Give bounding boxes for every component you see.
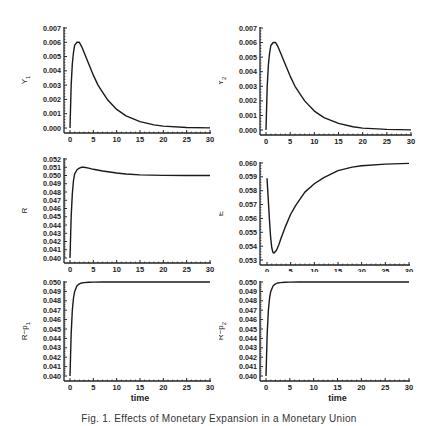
svg-text:0: 0 <box>68 383 72 392</box>
y-axis-label: R <box>20 207 29 213</box>
svg-text:0.055: 0.055 <box>239 228 257 237</box>
svg-text:0.052: 0.052 <box>43 155 61 164</box>
svg-text:0.040: 0.040 <box>43 254 61 263</box>
svg-text:0.004: 0.004 <box>239 67 257 76</box>
svg-text:0.050: 0.050 <box>239 278 257 287</box>
chart-svg: 0.0000.0010.0020.0030.0040.0050.0060.007… <box>219 0 438 145</box>
svg-text:0.005: 0.005 <box>43 52 61 61</box>
svg-text:0.046: 0.046 <box>43 204 61 213</box>
svg-text:0.041: 0.041 <box>239 362 257 371</box>
svg-text:30: 30 <box>405 383 413 392</box>
svg-text:0.001: 0.001 <box>239 111 257 120</box>
svg-text:15: 15 <box>136 383 144 392</box>
svg-text:0.044: 0.044 <box>239 334 257 343</box>
data-series-line <box>70 167 210 258</box>
y-axis-label: R−p2 <box>219 321 227 340</box>
svg-text:0.043: 0.043 <box>43 229 61 238</box>
chart-svg: 0.0000.0010.0020.0030.0040.0050.0060.007… <box>0 0 220 145</box>
svg-text:0.045: 0.045 <box>43 325 61 334</box>
svg-text:0: 0 <box>264 383 268 392</box>
svg-text:0.049: 0.049 <box>239 287 257 296</box>
svg-text:0.045: 0.045 <box>43 212 61 221</box>
svg-text:0.054: 0.054 <box>239 242 257 251</box>
axes <box>260 162 410 265</box>
svg-text:0.049: 0.049 <box>43 287 61 296</box>
svg-text:0.048: 0.048 <box>43 296 61 305</box>
axes <box>64 27 211 133</box>
svg-text:0.041: 0.041 <box>43 245 61 254</box>
chart-panel-y1: 0.0000.0010.0020.0030.0040.0050.0060.007… <box>0 0 220 145</box>
svg-text:0.004: 0.004 <box>43 66 61 75</box>
svg-text:5: 5 <box>288 383 292 392</box>
svg-text:0.051: 0.051 <box>43 163 61 172</box>
svg-text:0.044: 0.044 <box>43 221 61 230</box>
svg-text:0.003: 0.003 <box>43 81 61 90</box>
chart-panel-e: 0.0530.0540.0550.0560.0570.0580.0590.060… <box>219 137 438 272</box>
svg-text:0.046: 0.046 <box>239 315 257 324</box>
chart-panel-r: 0.0400.0410.0420.0430.0440.0450.0460.047… <box>0 137 220 272</box>
x-tick-labels: 051015202530 <box>68 378 214 392</box>
svg-text:0.059: 0.059 <box>239 172 257 181</box>
y-axis-label: Y2 <box>219 76 227 85</box>
y-axis-label: E <box>219 211 225 216</box>
svg-text:0.040: 0.040 <box>239 372 257 381</box>
svg-text:0.049: 0.049 <box>43 179 61 188</box>
svg-text:0.007: 0.007 <box>239 24 257 33</box>
svg-text:0.048: 0.048 <box>239 296 257 305</box>
svg-text:0.001: 0.001 <box>43 109 61 118</box>
y-axis-label: Y1 <box>20 75 31 84</box>
svg-text:0.040: 0.040 <box>43 372 61 381</box>
svg-text:30: 30 <box>206 383 214 392</box>
data-series-line <box>70 282 210 376</box>
svg-text:0.000: 0.000 <box>43 124 61 133</box>
chart-svg: 0.0400.0410.0420.0430.0440.0450.0460.047… <box>219 268 438 403</box>
svg-text:0.043: 0.043 <box>43 343 61 352</box>
y-axis-label: R−p1 <box>20 321 31 340</box>
svg-text:0.046: 0.046 <box>43 315 61 324</box>
chart-panel-r-minus-p2: 0.0400.0410.0420.0430.0440.0450.0460.047… <box>219 268 438 403</box>
svg-text:0.006: 0.006 <box>43 38 61 47</box>
svg-text:0.002: 0.002 <box>43 95 61 104</box>
data-series-line <box>267 163 409 253</box>
svg-text:0.050: 0.050 <box>43 278 61 287</box>
svg-text:0.005: 0.005 <box>239 53 257 62</box>
axes <box>260 27 412 135</box>
chart-panel-y2: 0.0000.0010.0020.0030.0040.0050.0060.007… <box>219 0 438 145</box>
svg-text:0.006: 0.006 <box>239 38 257 47</box>
svg-text:5: 5 <box>91 383 95 392</box>
svg-text:10: 10 <box>112 383 120 392</box>
svg-text:25: 25 <box>381 383 389 392</box>
svg-text:0.050: 0.050 <box>43 171 61 180</box>
svg-text:0.047: 0.047 <box>43 306 61 315</box>
data-series-line <box>266 43 411 130</box>
chart-svg: 0.0530.0540.0550.0560.0570.0580.0590.060… <box>219 137 438 272</box>
svg-text:0.045: 0.045 <box>239 325 257 334</box>
svg-text:20: 20 <box>159 383 167 392</box>
data-series-line <box>266 282 409 376</box>
x-axis-label: time <box>131 393 150 403</box>
svg-text:0.043: 0.043 <box>239 343 257 352</box>
svg-text:0.002: 0.002 <box>239 96 257 105</box>
chart-svg: 0.0400.0410.0420.0430.0440.0450.0460.047… <box>0 268 220 403</box>
svg-text:0.060: 0.060 <box>239 159 257 168</box>
svg-text:0.048: 0.048 <box>43 188 61 197</box>
svg-text:0.053: 0.053 <box>239 256 257 265</box>
svg-text:0.056: 0.056 <box>239 214 257 223</box>
svg-text:0.000: 0.000 <box>239 126 257 135</box>
data-series-line <box>70 42 210 128</box>
svg-text:0.044: 0.044 <box>43 334 61 343</box>
svg-text:25: 25 <box>182 383 190 392</box>
chart-svg: 0.0400.0410.0420.0430.0440.0450.0460.047… <box>0 137 220 272</box>
figure-caption: Fig. 1. Effects of Monetary Expansion in… <box>0 413 438 424</box>
axes <box>64 158 211 263</box>
x-tick-labels: 051015202530 <box>264 378 413 392</box>
svg-text:0.057: 0.057 <box>239 200 257 209</box>
axes <box>260 281 410 381</box>
svg-text:10: 10 <box>309 383 317 392</box>
svg-text:0.058: 0.058 <box>239 186 257 195</box>
svg-text:0.007: 0.007 <box>43 24 61 33</box>
svg-text:0.041: 0.041 <box>43 362 61 371</box>
svg-text:20: 20 <box>357 383 365 392</box>
svg-text:15: 15 <box>333 383 341 392</box>
svg-text:0.042: 0.042 <box>43 237 61 246</box>
